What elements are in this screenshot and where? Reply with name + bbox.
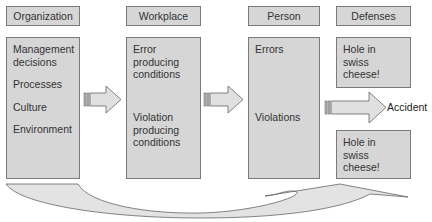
person-box: Errors Violations: [248, 37, 320, 179]
header-label: Organization: [13, 10, 73, 22]
item-management-decisions: Management decisions: [13, 43, 75, 68]
item-environment: Environment: [13, 123, 73, 136]
header-person: Person: [248, 6, 320, 26]
header-organization: Organization: [6, 6, 80, 26]
item-hole-swiss-cheese: Hole in swiss cheese!: [343, 43, 385, 81]
header-label: Person: [267, 10, 300, 22]
item-error-producing-conditions: Error producing conditions: [133, 43, 189, 111]
item-culture: Culture: [13, 101, 73, 114]
organization-box: Management decisions Processes Culture E…: [6, 37, 80, 179]
workplace-box: Error producing conditions Violation pro…: [126, 37, 201, 179]
header-label: Defenses: [351, 10, 395, 22]
defense-box-bottom: Hole in swiss cheese!: [336, 130, 411, 179]
defense-box-top: Hole in swiss cheese!: [336, 37, 411, 88]
item-errors: Errors: [255, 43, 313, 111]
item-processes: Processes: [13, 78, 73, 91]
item-violation-producing-conditions: Violation producing conditions: [133, 111, 189, 149]
header-label: Workplace: [139, 10, 188, 22]
curved-feedback-arrow: [6, 184, 408, 218]
item-violations: Violations: [255, 111, 313, 124]
arrow-org-to-workplace: [84, 86, 121, 113]
arrow-workplace-to-person: [204, 86, 243, 113]
item-hole-swiss-cheese: Hole in swiss cheese!: [343, 136, 385, 174]
header-defenses: Defenses: [336, 6, 411, 26]
header-workplace: Workplace: [126, 6, 201, 26]
accident-label: Accident: [387, 101, 427, 113]
arrow-to-accident: [325, 92, 386, 123]
